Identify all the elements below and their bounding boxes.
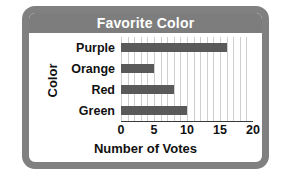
y-tick-label: Green xyxy=(55,100,117,121)
bar-row xyxy=(121,79,253,100)
x-tick-label: 5 xyxy=(151,123,158,137)
y-tick-label: Red xyxy=(55,79,117,100)
x-axis-title: Number of Votes xyxy=(29,141,262,156)
plot-container: Color Purple Orange Red Green 05101520 N… xyxy=(29,33,262,162)
y-tick-label: Purple xyxy=(55,37,117,58)
bar-red xyxy=(121,85,174,94)
chart-card: Favorite Color Color Purple Orange Red G… xyxy=(22,6,269,169)
chart-title: Favorite Color xyxy=(97,16,195,30)
x-tick-label: 10 xyxy=(180,123,194,137)
y-tick-label: Orange xyxy=(55,58,117,79)
x-tick-label: 20 xyxy=(246,123,260,137)
y-axis-tick-labels: Purple Orange Red Green xyxy=(55,37,117,121)
bar-orange xyxy=(121,64,154,73)
bar-series xyxy=(121,37,253,121)
bar-row xyxy=(121,37,253,58)
bar-row xyxy=(121,100,253,121)
chart-title-bar: Favorite Color xyxy=(29,13,262,33)
bar-purple xyxy=(121,43,227,52)
plot-area xyxy=(121,37,253,121)
x-tick-label: 0 xyxy=(118,123,125,137)
x-tick-label: 15 xyxy=(213,123,227,137)
bar-green xyxy=(121,106,187,115)
x-axis-tick-labels: 05101520 xyxy=(121,123,253,139)
x-axis-line xyxy=(121,121,253,122)
bar-row xyxy=(121,58,253,79)
